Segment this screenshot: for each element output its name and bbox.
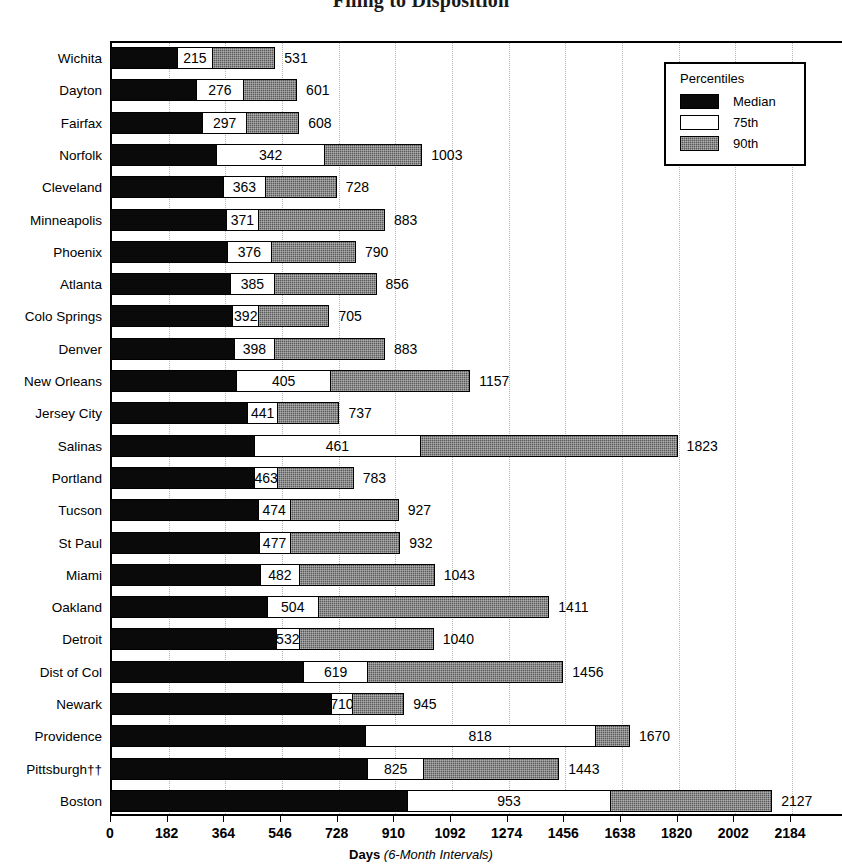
bar-group: 474 (110, 499, 399, 521)
bar-segment-median (110, 47, 177, 69)
bar-segment-median (110, 144, 216, 166)
bar-row: Atlanta385856 (0, 267, 842, 298)
y-axis-label: Oakland (0, 601, 102, 615)
bar-group: 405 (110, 370, 470, 392)
bar-segment-median (110, 467, 254, 489)
legend-item-75th: 75th (680, 112, 804, 133)
bar-segment-90th (300, 628, 434, 650)
y-axis-label: Wichita (0, 52, 102, 66)
x-axis-title: Days (6-Month Intervals) (0, 847, 842, 862)
bar-row: Dist of Col6191456 (0, 655, 842, 686)
x-tick (563, 816, 564, 822)
y-axis-label: Denver (0, 343, 102, 357)
bar-row: Minneapolis371883 (0, 202, 842, 233)
bar-row: Phoenix376790 (0, 235, 842, 266)
median-value-label: 376 (238, 245, 261, 259)
p90-value-label: 927 (408, 502, 431, 518)
bar-row: Newark710945 (0, 687, 842, 718)
median-value-label: 398 (243, 342, 266, 356)
p90-value-label: 1456 (572, 664, 603, 680)
bar-group: 504 (110, 596, 549, 618)
p90-value-label: 856 (386, 276, 409, 292)
bar-group: 825 (110, 758, 559, 780)
legend-label-median: Median (733, 94, 776, 109)
median-value-label: 461 (326, 439, 349, 453)
y-axis-label: Norfolk (0, 149, 102, 163)
bar-segment-90th (278, 402, 339, 424)
bar-segment-90th (266, 176, 337, 198)
y-axis-label: Cleveland (0, 181, 102, 195)
bar-segment-median (110, 241, 227, 263)
p90-value-label: 790 (365, 244, 388, 260)
p90-value-label: 883 (394, 341, 417, 357)
bar-segment-90th (291, 499, 399, 521)
median-value-label: 532 (276, 632, 299, 646)
x-tick-label: 364 (212, 825, 235, 841)
y-axis-label: Colo Springs (0, 310, 102, 324)
bar-segment-median (110, 499, 258, 521)
bar-group: 215 (110, 47, 275, 69)
bar-segment-90th (213, 47, 276, 69)
p90-value-label: 1823 (687, 438, 718, 454)
bar-segment-median (110, 596, 267, 618)
p90-value-label: 608 (308, 115, 331, 131)
bar-group: 441 (110, 402, 339, 424)
bar-row: Pittsburgh††8251443 (0, 751, 842, 782)
x-tick (110, 816, 111, 822)
p90-value-label: 728 (346, 179, 369, 195)
bar-segment-median (110, 273, 230, 295)
x-tick-label: 1092 (434, 825, 465, 841)
median-value-label: 825 (384, 762, 407, 776)
bar-row: New Orleans4051157 (0, 364, 842, 395)
bar-segment-90th (259, 305, 329, 327)
bar-group: 385 (110, 273, 377, 295)
y-axis-label: Phoenix (0, 246, 102, 260)
legend-swatch-90th-icon (680, 136, 719, 151)
bar-group: 477 (110, 532, 400, 554)
x-tick (337, 816, 338, 822)
bar-segment-75th: 477 (259, 532, 291, 554)
bar-segment-median (110, 112, 202, 134)
p90-value-label: 2127 (781, 793, 812, 809)
x-tick (167, 816, 168, 822)
y-axis-label: New Orleans (0, 375, 102, 389)
p90-value-label: 1670 (639, 728, 670, 744)
p90-value-label: 945 (413, 696, 436, 712)
bar-segment-90th (611, 790, 772, 812)
bar-segment-75th: 461 (254, 435, 422, 457)
bar-segment-75th: 376 (227, 241, 272, 263)
bar-group: 461 (110, 435, 678, 457)
x-tick-label: 728 (325, 825, 348, 841)
y-axis-label: Tucson (0, 504, 102, 518)
x-tick-label: 182 (155, 825, 178, 841)
x-tick (223, 816, 224, 822)
x-tick (280, 816, 281, 822)
bar-group: 363 (110, 176, 337, 198)
chart-title: Filing to Disposition (0, 0, 842, 12)
bar-segment-median (110, 435, 254, 457)
p90-value-label: 1411 (558, 599, 588, 615)
legend-item-90th: 90th (680, 133, 804, 154)
bar-segment-75th: 441 (247, 402, 278, 424)
median-value-label: 818 (469, 729, 492, 743)
x-tick (450, 816, 451, 822)
bar-segment-75th: 385 (230, 273, 275, 295)
bar-group: 371 (110, 209, 385, 231)
bar-group: 297 (110, 112, 299, 134)
bar-segment-median (110, 79, 196, 101)
y-axis-label: Providence (0, 730, 102, 744)
x-tick (507, 816, 508, 822)
x-tick-label: 0 (106, 825, 114, 841)
median-value-label: 504 (281, 600, 304, 614)
x-tick-label: 546 (268, 825, 291, 841)
median-value-label: 477 (263, 536, 286, 550)
y-axis-label: Detroit (0, 633, 102, 647)
bar-segment-90th (331, 370, 470, 392)
bar-group: 376 (110, 241, 356, 263)
bar-segment-75th: 297 (202, 112, 247, 134)
bar-row: Salinas4611823 (0, 429, 842, 460)
p90-value-label: 737 (348, 405, 371, 421)
median-value-label: 276 (208, 83, 231, 97)
bar-segment-90th (272, 241, 356, 263)
p90-value-label: 783 (363, 470, 386, 486)
